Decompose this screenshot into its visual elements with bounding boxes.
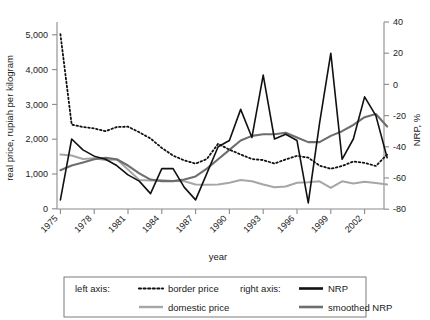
x-tick-label-1996: 1996 (275, 213, 296, 234)
x-axis-ticks: 1975 1978 1981 1984 1987 1990 1993 1996 … (39, 209, 365, 235)
left-axis-ticks: 5,000 4,000 3,000 2,000 1,000 0 (25, 30, 57, 214)
right-tick-label-0: 0 (393, 80, 398, 90)
left-tick-label-3000: 3,000 (25, 100, 48, 110)
x-axis-title: year (209, 251, 227, 262)
left-tick-label-5000: 5,000 (25, 30, 48, 40)
legend-left-axis-label: left axis: (75, 283, 110, 294)
series-border-price (60, 34, 387, 169)
x-tick-label-1990: 1990 (208, 213, 229, 234)
chart-figure: 5,000 4,000 3,000 2,000 1,000 0 40 20 0 … (0, 0, 430, 320)
x-tick-label-1984: 1984 (140, 213, 161, 234)
x-tick-label-1981: 1981 (106, 213, 127, 234)
x-tick-label-1975: 1975 (39, 213, 60, 234)
left-tick-label-0: 0 (43, 204, 48, 214)
right-tick-label-minus60: -60 (393, 173, 406, 183)
left-tick-label-1000: 1,000 (25, 169, 48, 179)
x-tick-label-1993: 1993 (241, 213, 262, 234)
x-tick-label-1987: 1987 (174, 213, 195, 234)
y2-axis-title: NRP, % (411, 113, 422, 146)
right-tick-label-20: 20 (393, 48, 403, 58)
plot-series (60, 34, 387, 203)
legend-label-border-price: border price (168, 283, 219, 294)
left-tick-label-4000: 4,000 (25, 65, 48, 75)
right-tick-label-minus40: -40 (393, 142, 406, 152)
legend-label-smoothed-nrp: smoothed NRP (328, 302, 392, 313)
x-tick-label-2002: 2002 (343, 213, 364, 234)
legend-right-axis-label: right axis: (240, 283, 281, 294)
left-tick-label-2000: 2,000 (25, 134, 48, 144)
series-domestic-price (60, 155, 387, 188)
legend-label-domestic-price: domestic price (168, 302, 229, 313)
chart-svg: 5,000 4,000 3,000 2,000 1,000 0 40 20 0 … (0, 0, 430, 320)
y-axis-title: real price, rupiah per kilogram (4, 55, 15, 181)
axes (57, 22, 384, 209)
chart-legend: left axis: border price domestic price r… (64, 277, 392, 317)
right-tick-label-minus80: -80 (393, 204, 406, 214)
series-nrp (60, 53, 387, 203)
right-tick-label-minus20: -20 (393, 111, 406, 121)
x-tick-label-1999: 1999 (309, 213, 330, 234)
legend-label-nrp: NRP (328, 283, 348, 294)
right-tick-label-40: 40 (393, 17, 403, 27)
x-tick-label-1978: 1978 (72, 213, 93, 234)
